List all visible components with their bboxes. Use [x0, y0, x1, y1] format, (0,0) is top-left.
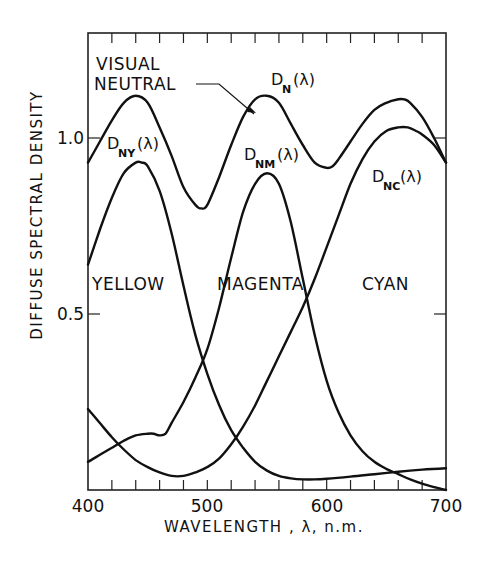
svg-text:(λ): (λ)	[137, 134, 159, 153]
svg-text:NY: NY	[118, 147, 136, 160]
dnm-label: D NM (λ)	[244, 145, 299, 171]
dny-label: D NY (λ)	[107, 134, 159, 160]
svg-text:(λ): (λ)	[277, 145, 299, 164]
visual-label: VISUAL	[96, 54, 160, 74]
cyan-region-label: CYAN	[362, 274, 409, 294]
dn-label: D N (λ)	[271, 70, 315, 96]
yellow-region-label: YELLOW	[91, 274, 165, 294]
neutral-label: NEUTRAL	[94, 74, 176, 94]
spectral-density-chart: 1.0 0.5 400 500 600 700 WAVELENGTH , λ, …	[0, 0, 482, 563]
y-tick-label-0.5: 0.5	[57, 304, 84, 324]
curve-ny	[88, 162, 446, 480]
x-tick-label-600: 600	[311, 496, 343, 516]
x-tick-label-700: 700	[430, 496, 462, 516]
x-axis-title: WAVELENGTH , λ, n.m.	[164, 518, 364, 536]
dnc-label: D NC (λ)	[372, 167, 422, 193]
x-tick-label-400: 400	[72, 496, 104, 516]
y-axis-title: DIFFUSE SPECTRAL DENSITY	[28, 90, 46, 339]
magenta-region-label: MAGENTA	[217, 274, 304, 294]
annotation-leader-line	[196, 84, 254, 114]
x-tick-label-500: 500	[191, 496, 223, 516]
svg-text:(λ): (λ)	[400, 167, 422, 186]
svg-text:(λ): (λ)	[293, 70, 315, 89]
svg-text:NM: NM	[255, 158, 275, 171]
svg-text:NC: NC	[383, 180, 400, 193]
svg-text:N: N	[282, 83, 291, 96]
y-tick-label-1.0: 1.0	[57, 128, 84, 148]
curve-nm	[88, 173, 446, 490]
